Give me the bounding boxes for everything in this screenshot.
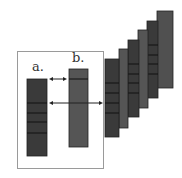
stack-bar-1 — [105, 59, 119, 137]
stack-bar-4 — [138, 30, 148, 108]
stack-bar-3 — [128, 40, 139, 117]
bar-stack — [105, 11, 173, 137]
stack-bar-5 — [147, 21, 158, 98]
diagram-canvas — [0, 0, 182, 178]
arrowhead-right-icon — [99, 101, 103, 105]
stack-bar-6 — [157, 11, 173, 88]
bar-b — [69, 69, 88, 147]
label-b: b. — [72, 50, 84, 65]
arrowhead-right-icon — [63, 77, 67, 81]
arrowhead-left-icon — [49, 101, 53, 105]
stack-bar-2 — [119, 49, 128, 128]
label-a: a. — [32, 59, 44, 74]
bar-a — [27, 79, 47, 156]
arrowhead-left-icon — [49, 77, 53, 81]
